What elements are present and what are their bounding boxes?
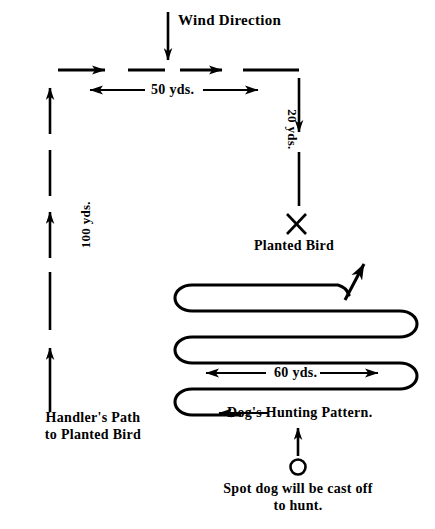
planted-bird-label: Planted Bird [238, 238, 350, 254]
cast-off-label-line1: Spot dog will be cast off [175, 481, 421, 497]
wind-direction-label: Wind Direction [178, 12, 281, 29]
handlers-path-label-line1: Handler's Path [8, 410, 178, 426]
cast-off-label-line2: to hunt. [175, 498, 421, 514]
dogs-hunting-pattern-label: Dog's Hunting Pattern. [227, 405, 372, 421]
cast-off-spot-marker [291, 428, 306, 475]
diagram-vector-layer [0, 0, 435, 529]
measurement-label-100yds: 100 yds. [79, 190, 94, 248]
handlers-path-label-line2: to Planted Bird [8, 427, 178, 443]
measurement-label-60yds: 60 yds. [274, 365, 317, 381]
planted-bird-x-marker [287, 214, 306, 234]
diagram-canvas: Wind Direction 50 yds. 20 yds. 100 yds. … [0, 0, 435, 529]
measurement-label-50yds: 50 yds. [151, 82, 194, 98]
dog-hunting-pattern-path [175, 264, 417, 415]
measurement-label-20yds: 20 yds. [285, 109, 300, 161]
